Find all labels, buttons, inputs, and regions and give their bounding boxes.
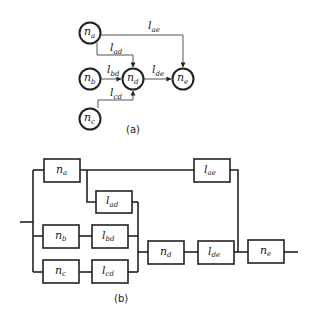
node-na: na bbox=[80, 23, 101, 44]
edge-label-lbd: lbd bbox=[107, 63, 120, 78]
caption-a: (a) bbox=[126, 124, 140, 135]
node-nb: nb bbox=[80, 69, 101, 90]
reliability-diagram: laeladlbdldelcd nanbncndne (a) nalaeladn… bbox=[0, 0, 312, 317]
block-nd: nd bbox=[148, 241, 184, 264]
block-lbd: lbd bbox=[92, 225, 128, 248]
node-nc: nc bbox=[80, 109, 101, 130]
block-ne: ne bbox=[248, 240, 284, 263]
block-na: na bbox=[44, 159, 80, 182]
wire-na-lad bbox=[87, 170, 96, 202]
edge-label-lad: lad bbox=[110, 41, 123, 56]
caption-b: (b) bbox=[114, 293, 128, 304]
block-lae: lae bbox=[194, 159, 230, 182]
edge-label-lae: lae bbox=[148, 19, 160, 34]
network-graph-a: laeladlbdldelcd nanbncndne (a) bbox=[80, 19, 194, 135]
edge-label-lde: lde bbox=[152, 63, 164, 78]
block-nb: nb bbox=[43, 225, 79, 248]
node-ne: ne bbox=[173, 69, 194, 90]
block-lde: lde bbox=[198, 241, 234, 264]
block-lad: lad bbox=[96, 191, 132, 213]
node-nd: nd bbox=[123, 69, 144, 90]
wire-lae-ne bbox=[230, 170, 238, 252]
block-lcd: lcd bbox=[92, 260, 128, 283]
block-nc: nc bbox=[43, 260, 79, 283]
edge-label-lcd: lcd bbox=[110, 86, 122, 101]
block-diagram-b: nalaeladnblbdnclcdndldene (b) bbox=[20, 159, 298, 304]
